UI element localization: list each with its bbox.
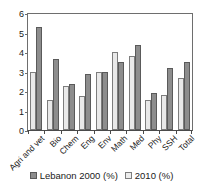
legend-label-lebanon-2000: Lebanon 2000 (%) (40, 170, 118, 181)
bar-group (94, 14, 110, 130)
x-axis-tick-mark (44, 130, 45, 134)
bar-lebanon-2000 (151, 93, 157, 130)
x-axis-label: Math (110, 134, 129, 153)
bar-group (77, 14, 93, 130)
bar-lebanon-2000 (102, 72, 108, 130)
bar-group (110, 14, 126, 130)
bar-group (126, 14, 142, 130)
bar-lebanon-2000 (135, 45, 141, 130)
legend-label-2010: 2010 (%) (135, 170, 174, 181)
bar-group (143, 14, 159, 130)
x-axis-label: Phy (146, 134, 162, 150)
bar-lebanon-2000 (36, 27, 42, 130)
x-axis-tick-mark (28, 130, 29, 134)
x-axis-label: Eng (79, 134, 96, 151)
x-axis-tick-mark (126, 130, 127, 134)
plot-area: 0123456 (27, 13, 193, 131)
x-axis-tick-mark (191, 130, 192, 134)
bar-groups (28, 14, 192, 130)
legend-swatch-2010 (125, 172, 132, 179)
bar-group (159, 14, 175, 130)
bar-lebanon-2000 (53, 59, 59, 130)
bar-group (61, 14, 77, 130)
x-axis-tick-mark (110, 130, 111, 134)
x-axis-label: Agri and vet (8, 134, 46, 172)
bar-lebanon-2000 (69, 84, 75, 130)
bar-lebanon-2000 (85, 74, 91, 130)
legend-item-2010: 2010 (%) (125, 170, 174, 181)
bar-lebanon-2000 (167, 68, 173, 130)
bar-group (44, 14, 60, 130)
x-axis-tick-mark (77, 130, 78, 134)
bar-chart-figure: 0123456 Agri and vetBioChemEngEnvMathMed… (0, 0, 203, 187)
legend-item-lebanon-2000: Lebanon 2000 (%) (30, 170, 118, 181)
bar-group (176, 14, 192, 130)
x-axis-label: SSH (161, 134, 179, 152)
x-axis-tick-mark (61, 130, 62, 134)
x-axis-label: Total (177, 134, 196, 153)
bar-lebanon-2000 (184, 62, 190, 130)
x-axis-label: Med (128, 134, 146, 152)
x-axis-tick-mark (159, 130, 160, 134)
chart-legend: Lebanon 2000 (%) 2010 (%) (0, 170, 203, 181)
x-axis-tick-mark (94, 130, 95, 134)
legend-swatch-lebanon-2000 (30, 172, 37, 179)
x-axis-tick-mark (143, 130, 144, 134)
bar-group (28, 14, 44, 130)
bar-lebanon-2000 (118, 62, 124, 130)
x-axis-tick-mark (176, 130, 177, 134)
